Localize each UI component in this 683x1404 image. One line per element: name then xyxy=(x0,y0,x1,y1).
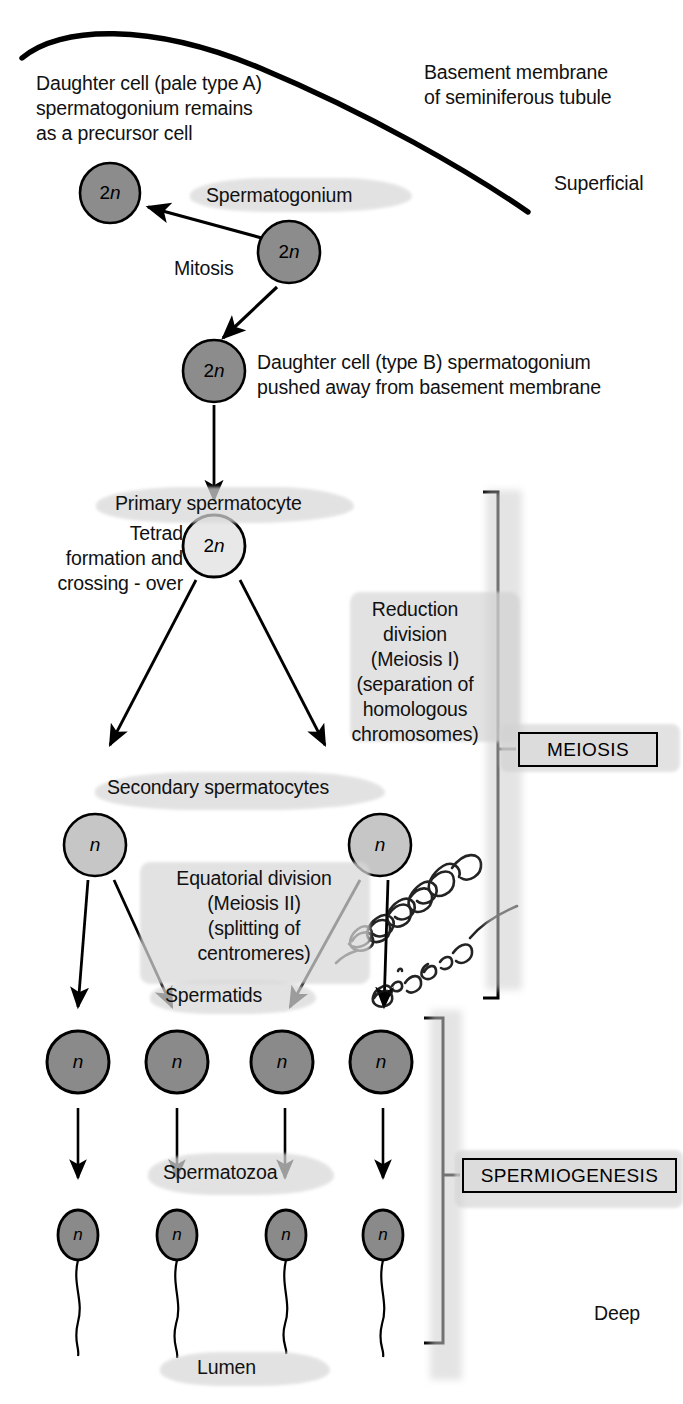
cell-spermatid-2 xyxy=(146,1031,208,1093)
cell-spermatid-1 xyxy=(47,1031,109,1093)
tetrad-label: Tetrad formation and crossing - over xyxy=(5,521,183,596)
cell-spermatid-4 xyxy=(350,1031,412,1093)
secondary-spermatocytes-stage-label: Secondary spermatocytes xyxy=(107,775,329,800)
cell-spermatid-3 xyxy=(251,1031,313,1093)
daughter-cell-type-b-label: Daughter cell (type B) spermatogonium pu… xyxy=(257,350,601,400)
daughter-cell-type-a-label: Daughter cell (pale type A) spermatogoni… xyxy=(36,71,262,146)
spermatids-stage-label: Spermatids xyxy=(165,983,262,1008)
spermatozoon-2 xyxy=(157,1210,197,1358)
equatorial-division-label: Equatorial division (Meiosis II) (splitt… xyxy=(140,866,368,966)
spermiogenesis-bracket xyxy=(424,1018,443,1343)
meiosis-bracket-label: MEIOSIS xyxy=(518,732,658,767)
reduction-division-label: Reduction division (Meiosis I) (separati… xyxy=(340,597,490,747)
arrow-meiosis1-right xyxy=(240,580,325,745)
spermiogenesis-bracket-label: SPERMIOGENESIS xyxy=(462,1158,677,1193)
spermatozoa-stage-label: Spermatozoa xyxy=(163,1160,277,1185)
spermatozoon-1 xyxy=(58,1210,98,1356)
deep-label: Deep xyxy=(594,1301,640,1326)
arrow-meiosis2-right-outer xyxy=(384,880,388,1007)
arrow-mitosis-to-daughter-a xyxy=(148,207,269,240)
spermatozoon-4 xyxy=(363,1210,403,1357)
spermatogonium-stage-label: Spermatogonium xyxy=(206,183,352,208)
cell-daughter-type-b xyxy=(183,340,245,402)
cell-daughter-type-a xyxy=(80,163,140,223)
primary-spermatocyte-stage-label: Primary spermatocyte xyxy=(115,491,302,516)
arrow-meiosis2-left-outer xyxy=(78,880,88,1007)
superficial-label: Superficial xyxy=(554,171,643,196)
spermatozoon-3 xyxy=(266,1210,306,1354)
basement-membrane-label: Basement membrane of seminiferous tubule xyxy=(424,60,611,110)
cell-spermatogonium xyxy=(258,221,320,283)
spermatogenesis-diagram: 2n 2n 2n 2n n n n n n n n n n n Basement… xyxy=(0,0,683,1404)
cell-secondary-spermatocyte-left xyxy=(64,814,126,876)
lumen-stage-label: Lumen xyxy=(197,1355,256,1380)
arrow-meiosis1-left xyxy=(110,580,196,745)
cell-primary-spermatocyte xyxy=(183,515,245,577)
mitosis-label: Mitosis xyxy=(174,256,234,281)
arrow-spermatogonium-to-daughter-b xyxy=(223,287,277,338)
